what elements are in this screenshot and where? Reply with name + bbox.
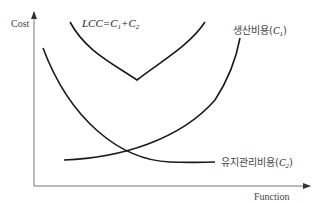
production-cost-label: 생산비용(C1) [233, 25, 287, 38]
maintenance-cost-curve [43, 48, 215, 162]
maintenance-cost-label: 유지관리비용(C2) [221, 157, 293, 170]
lcc-diagram: Cost Function LCC=C1+C2 생산비용(C1) 유지관리비용(… [0, 0, 314, 203]
x-axis-label: Function [254, 191, 290, 202]
y-axis-label: Cost [11, 18, 30, 29]
production-cost-curve [64, 38, 240, 160]
lcc-label: LCC=C1+C2 [81, 17, 140, 31]
